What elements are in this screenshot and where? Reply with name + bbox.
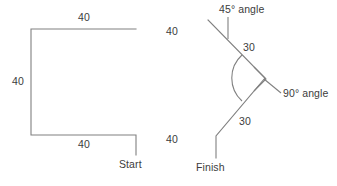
right-angle-arc-marker [232,55,242,101]
label-lower-segment: 30 [239,116,251,127]
start-path-group [31,29,136,155]
label-top-length-left: 40 [78,12,90,23]
label-bottom-length-right: 40 [166,134,178,145]
angle-90-leader-line [264,79,281,93]
label-finish: Finish [196,162,225,173]
label-top-length-right: 40 [166,26,178,37]
start-path-polyline [31,29,136,155]
label-left-length: 40 [12,76,24,87]
label-start: Start [119,159,142,170]
geometry-diagram: 40 40 40 Start 40 40 30 30 45° angle 90°… [0,0,337,186]
label-angle-45: 45° angle [219,4,264,15]
label-bottom-length-left: 40 [78,139,90,150]
label-upper-segment: 30 [243,42,255,53]
label-angle-90: 90° angle [283,88,328,99]
